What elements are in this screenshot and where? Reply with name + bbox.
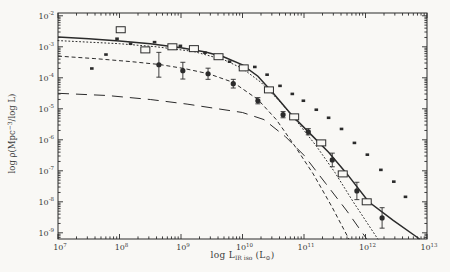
small-dot-marker bbox=[404, 196, 408, 199]
y-tick-label: 10-8 bbox=[38, 196, 54, 206]
filled-circle-marker bbox=[280, 112, 285, 117]
small-dot-marker bbox=[265, 73, 269, 76]
filled-circle-marker bbox=[180, 68, 185, 73]
open-square-marker bbox=[264, 87, 273, 93]
filled-circle-marker bbox=[255, 98, 260, 103]
y-tick-label: 10-7 bbox=[38, 165, 54, 175]
small-dot-marker bbox=[291, 93, 295, 96]
luminosity-function-figure: 107108109101010111012101310-210-310-410-… bbox=[0, 0, 450, 272]
tick-labels: 107108109101010111012101310-210-310-410-… bbox=[38, 10, 438, 252]
x-axis-label-text: log L bbox=[211, 250, 235, 260]
y-axis-label-exponent: −3 bbox=[6, 121, 13, 130]
open-square-marker bbox=[141, 47, 150, 53]
x-axis-label-mid: (L bbox=[252, 250, 265, 260]
filled-circle-marker bbox=[306, 129, 311, 134]
small-dot-marker bbox=[366, 153, 370, 156]
open-square-marker bbox=[317, 140, 326, 146]
filled-circle-marker bbox=[156, 62, 161, 67]
open-square-marker bbox=[189, 46, 198, 52]
filled-circle-marker bbox=[380, 215, 385, 220]
x-axis-label-close: ) bbox=[271, 250, 275, 260]
x-axis-label-subscript: IR iso bbox=[235, 254, 252, 261]
filled-circle-marker bbox=[330, 157, 335, 162]
small-dot-marker bbox=[392, 180, 396, 183]
filled-circle-marker bbox=[205, 71, 210, 76]
filled-circle-marker bbox=[231, 81, 236, 86]
y-tick-label: 10-3 bbox=[38, 41, 54, 51]
small-dot-marker bbox=[353, 142, 357, 145]
y-axis-label-text: log ρ(Mpc bbox=[7, 130, 17, 173]
open-square-marker bbox=[116, 27, 125, 33]
small-dot-marker bbox=[104, 53, 108, 56]
small-dot-marker bbox=[340, 128, 344, 131]
curve-dotted-model bbox=[58, 41, 378, 239]
open-square-marker bbox=[338, 171, 347, 177]
small-dot-marker bbox=[379, 169, 383, 172]
open-square-marker bbox=[239, 65, 248, 71]
y-tick-label: 10-4 bbox=[38, 72, 54, 82]
small-dot-marker bbox=[228, 60, 232, 63]
small-dot-marker bbox=[153, 41, 157, 44]
small-dot-marker bbox=[302, 99, 306, 102]
y-tick-label: 10-9 bbox=[38, 227, 54, 237]
x-axis-label: log LIR iso (L⊙) bbox=[58, 250, 427, 261]
small-dot-marker bbox=[253, 66, 257, 69]
plot-area: 107108109101010111012101310-210-310-410-… bbox=[0, 0, 450, 272]
series-open-squares bbox=[116, 27, 371, 205]
curve-long-dash-model bbox=[58, 93, 367, 239]
series-filled-circles bbox=[156, 52, 384, 228]
small-dot-marker bbox=[179, 45, 183, 48]
y-axis-label-end: /log L) bbox=[7, 94, 17, 122]
open-square-marker bbox=[290, 114, 299, 120]
open-square-marker bbox=[168, 44, 177, 50]
figure-page: 107108109101010111012101310-210-310-410-… bbox=[0, 0, 450, 272]
small-dot-marker bbox=[203, 51, 207, 54]
y-tick-label: 10-2 bbox=[38, 10, 54, 20]
curve-short-dash-model bbox=[58, 56, 349, 239]
small-dot-marker bbox=[129, 42, 133, 45]
y-axis-label: log ρ(Mpc−3/log L) bbox=[6, 34, 17, 234]
small-dot-marker bbox=[115, 37, 119, 40]
y-tick-label: 10-5 bbox=[38, 103, 54, 113]
open-square-marker bbox=[362, 199, 371, 205]
series-small-dots bbox=[90, 37, 407, 198]
small-dot-marker bbox=[278, 85, 282, 88]
open-square-marker bbox=[214, 54, 223, 60]
y-tick-label: 10-6 bbox=[38, 134, 54, 144]
small-dot-marker bbox=[327, 116, 331, 119]
filled-circle-marker bbox=[354, 188, 359, 193]
small-dot-marker bbox=[90, 67, 94, 70]
small-dot-marker bbox=[315, 108, 319, 111]
